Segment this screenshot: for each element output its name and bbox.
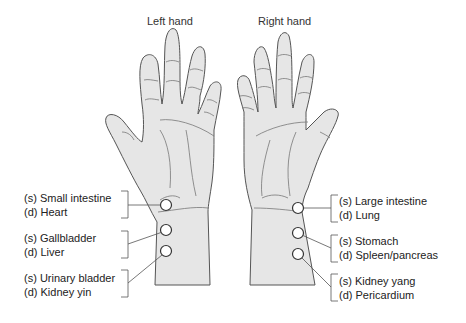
right-hand <box>237 33 338 285</box>
left-label-2-d: (d) Liver <box>24 246 96 260</box>
left-label-3: (s) Urinary bladder (d) Kidney yin <box>24 272 115 299</box>
right-pulse-points <box>293 203 304 260</box>
left-pulse-point-1 <box>161 200 172 211</box>
right-pulse-point-1 <box>293 203 304 214</box>
left-label-3-s: (s) Urinary bladder <box>24 272 115 286</box>
right-label-1-s: (s) Large intestine <box>339 195 427 209</box>
left-label-1-s: (s) Small intestine <box>24 192 111 206</box>
right-label-3-d: (d) Pericardium <box>339 289 415 303</box>
left-label-1-d: (d) Heart <box>24 206 111 220</box>
left-pulse-point-3 <box>161 246 172 257</box>
right-pulse-point-2 <box>293 228 304 239</box>
left-pulse-point-2 <box>161 225 172 236</box>
left-label-1: (s) Small intestine (d) Heart <box>24 192 111 219</box>
left-label-2: (s) Gallbladder (d) Liver <box>24 232 96 259</box>
right-label-2: (s) Stomach (d) Spleen/pancreas <box>339 235 438 262</box>
right-label-1: (s) Large intestine (d) Lung <box>339 195 427 222</box>
right-label-3: (s) Kidney yang (d) Pericardium <box>339 275 415 302</box>
right-label-3-s: (s) Kidney yang <box>339 275 415 289</box>
right-label-2-s: (s) Stomach <box>339 235 438 249</box>
left-pulse-points <box>161 200 172 257</box>
left-label-2-s: (s) Gallbladder <box>24 232 96 246</box>
right-pulse-point-3 <box>293 249 304 260</box>
left-label-3-d: (d) Kidney yin <box>24 286 115 300</box>
right-label-1-d: (d) Lung <box>339 209 427 223</box>
right-label-2-d: (d) Spleen/pancreas <box>339 249 438 263</box>
